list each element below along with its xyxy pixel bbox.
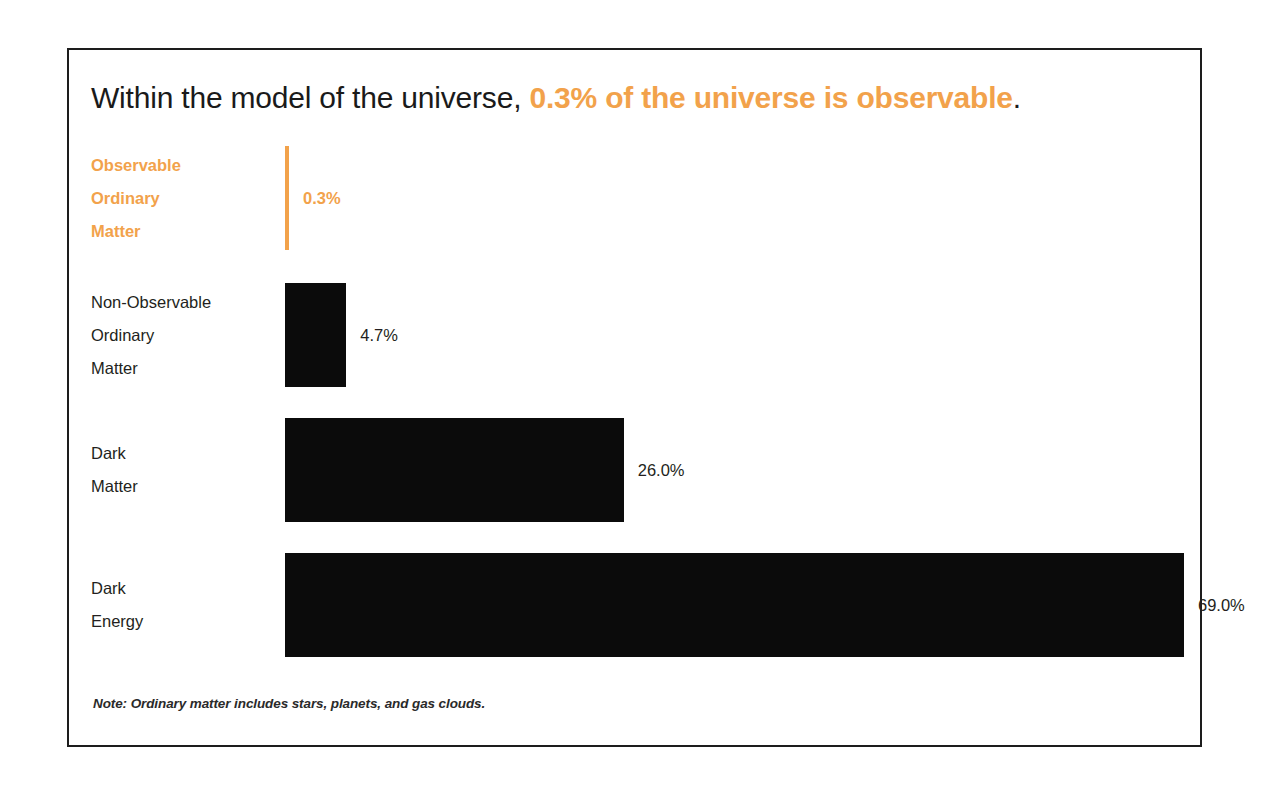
- bar-track: 26.0%: [285, 418, 1204, 522]
- bar-row: DarkMatter26.0%: [69, 418, 1204, 522]
- bar-category-label-line: Energy: [91, 605, 291, 638]
- bar-track: 0.3%: [285, 146, 1204, 250]
- bar-category-label-line: Ordinary: [91, 182, 291, 215]
- bar[interactable]: [285, 418, 624, 522]
- bar-category-label-line: Dark: [91, 572, 291, 605]
- chart-title: Within the model of the universe, 0.3% o…: [91, 80, 1181, 116]
- bar-chart-plot-area: ObservableOrdinaryMatter0.3%Non-Observab…: [69, 146, 1204, 691]
- bar-category-label: Non-ObservableOrdinaryMatter: [91, 286, 291, 385]
- bar-category-label-line: Observable: [91, 149, 291, 182]
- chart-footnote: Note: Ordinary matter includes stars, pl…: [93, 696, 485, 711]
- bar-category-label-line: Matter: [91, 352, 291, 385]
- bar[interactable]: [285, 146, 289, 250]
- bar-row: ObservableOrdinaryMatter0.3%: [69, 146, 1204, 250]
- bar[interactable]: [285, 283, 346, 387]
- bar-category-label: DarkMatter: [91, 437, 291, 503]
- bar-track: 69.0%: [285, 553, 1204, 657]
- bar-value-label: 0.3%: [303, 189, 341, 208]
- bar-row: DarkEnergy69.0%: [69, 553, 1204, 657]
- bar-value-label: 69.0%: [1198, 596, 1245, 615]
- bar-value-label: 26.0%: [638, 461, 685, 480]
- chart-title-tail: .: [1013, 81, 1021, 114]
- bar-category-label-line: Dark: [91, 437, 291, 470]
- bar-category-label: ObservableOrdinaryMatter: [91, 149, 291, 248]
- bar-category-label-line: Non-Observable: [91, 286, 291, 319]
- bar-track: 4.7%: [285, 283, 1204, 387]
- bar-row: Non-ObservableOrdinaryMatter4.7%: [69, 283, 1204, 387]
- bar-value-label: 4.7%: [360, 326, 398, 345]
- bar-category-label-line: Matter: [91, 470, 291, 503]
- chart-title-lead: Within the model of the universe,: [91, 81, 529, 114]
- chart-card: Within the model of the universe, 0.3% o…: [67, 48, 1202, 747]
- bar-category-label: DarkEnergy: [91, 572, 291, 638]
- bar[interactable]: [285, 553, 1184, 657]
- bar-category-label-line: Matter: [91, 215, 291, 248]
- bar-category-label-line: Ordinary: [91, 319, 291, 352]
- chart-title-highlight: 0.3% of the universe is observable: [529, 81, 1012, 114]
